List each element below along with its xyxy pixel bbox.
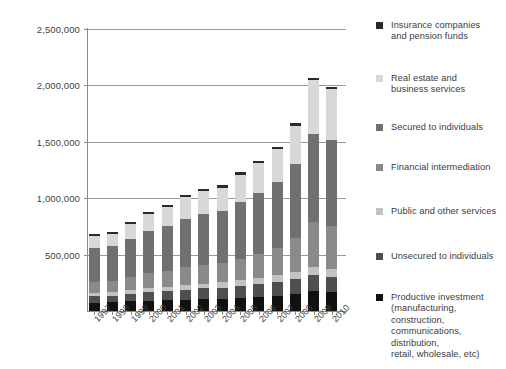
bar-segment	[290, 126, 301, 164]
bar-2007	[272, 147, 283, 311]
bar-segment	[162, 271, 173, 287]
bar-segment	[180, 267, 191, 285]
legend-swatch-icon	[376, 124, 383, 131]
bar-2008	[290, 123, 301, 311]
bar-segment	[253, 254, 264, 278]
bar-segment	[235, 259, 246, 281]
bars-layer	[88, 29, 346, 311]
bar-segment	[162, 207, 173, 226]
bar-segment	[217, 211, 228, 263]
bar-segment	[326, 277, 337, 292]
legend-item[interactable]: Public and other services	[376, 206, 496, 217]
bar-segment	[125, 224, 136, 239]
bar-segment	[143, 292, 154, 300]
bar-segment	[326, 140, 337, 226]
bar-2004	[217, 185, 228, 311]
bar-2010	[326, 87, 337, 311]
legend-swatch-icon	[376, 294, 383, 301]
bar-segment	[125, 294, 136, 301]
bar-segment	[272, 149, 283, 181]
bar-segment	[180, 219, 191, 267]
y-tick-label: 2,500,000	[0, 24, 80, 35]
legend-label: Unsecured to individuals	[391, 251, 494, 262]
bar-segment	[253, 163, 264, 193]
legend-item[interactable]: Financial intermediation	[376, 162, 490, 173]
legend-swatch-icon	[376, 164, 383, 171]
legend-item[interactable]: Unsecured to individuals	[376, 251, 494, 262]
bar-segment	[308, 267, 319, 275]
legend-item[interactable]: Secured to individuals	[376, 122, 483, 133]
bar-segment	[180, 197, 191, 219]
bar-segment	[125, 239, 136, 277]
bar-segment	[217, 288, 228, 299]
legend-item[interactable]: Productive investment (manufacturing, co…	[376, 292, 506, 360]
bar-segment	[272, 248, 283, 275]
legend-item[interactable]: Insurance companies and pension funds	[376, 20, 480, 43]
bar-2005	[235, 172, 246, 311]
legend-label: Secured to individuals	[391, 122, 483, 133]
bar-segment	[272, 182, 283, 249]
legend-swatch-icon	[376, 208, 383, 215]
bar-segment	[180, 290, 191, 300]
bar-segment	[198, 214, 209, 264]
bar-segment	[235, 202, 246, 258]
bar-2001	[162, 205, 173, 311]
bar-2002	[180, 195, 191, 311]
bar-segment	[198, 265, 209, 284]
bar-segment	[253, 284, 264, 297]
bar-1998	[107, 232, 118, 311]
legend-swatch-icon	[376, 22, 383, 29]
bar-segment	[162, 226, 173, 270]
bar-segment	[326, 226, 337, 269]
bar-segment	[143, 231, 154, 273]
bar-segment	[290, 238, 301, 272]
bar-2000	[143, 212, 154, 311]
bar-segment	[272, 282, 283, 296]
legend-label: Financial intermediation	[391, 162, 490, 173]
bar-segment	[217, 188, 228, 212]
bar-segment	[308, 134, 319, 222]
bar-segment	[143, 273, 154, 288]
bar-segment	[89, 282, 100, 293]
bar-segment	[107, 246, 118, 281]
bar-segment	[235, 286, 246, 298]
bar-segment	[107, 281, 118, 292]
bar-segment	[253, 193, 264, 254]
bar-segment	[89, 248, 100, 282]
legend-swatch-icon	[376, 253, 383, 260]
bar-segment	[89, 236, 100, 248]
y-tick-label: 2,000,000	[0, 80, 80, 91]
bar-1999	[125, 222, 136, 311]
legend-item[interactable]: Real estate and business services	[376, 73, 465, 96]
bar-segment	[125, 277, 136, 290]
bar-segment	[198, 288, 209, 299]
legend-label: Real estate and business services	[391, 73, 465, 96]
bar-segment	[326, 269, 337, 277]
legend-label: Productive investment (manufacturing, co…	[391, 292, 506, 360]
legend-swatch-icon	[376, 75, 383, 82]
stacked-bar-chart: 2,500,0002,000,0001,500,0001,000,000500,…	[0, 0, 506, 369]
bar-segment	[326, 89, 337, 140]
legend-label: Insurance companies and pension funds	[391, 20, 480, 43]
bar-1997	[89, 234, 100, 311]
bar-segment	[235, 175, 246, 203]
bar-segment	[308, 222, 319, 267]
bar-2003	[198, 189, 209, 311]
bar-segment	[290, 272, 301, 279]
bar-segment	[308, 275, 319, 291]
bar-segment	[198, 191, 209, 214]
bar-segment	[290, 164, 301, 238]
bar-segment	[308, 80, 319, 134]
y-tick-label: 1,500,000	[0, 136, 80, 147]
legend-label: Public and other services	[391, 206, 496, 217]
bar-segment	[143, 214, 154, 231]
bar-segment	[217, 263, 228, 282]
bar-2009	[308, 78, 319, 311]
y-tick-label: 500,000	[0, 249, 80, 260]
bar-segment	[290, 279, 301, 294]
bar-segment	[162, 291, 173, 300]
bar-segment	[107, 234, 118, 247]
bar-2006	[253, 161, 264, 311]
y-tick-label: 1,000,000	[0, 193, 80, 204]
